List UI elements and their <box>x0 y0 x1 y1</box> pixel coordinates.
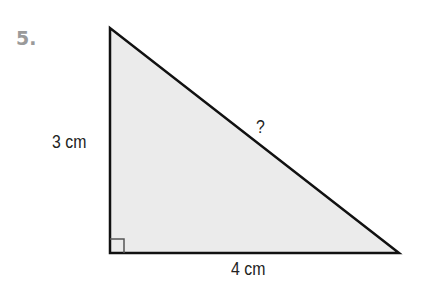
hypotenuse-label: ? <box>256 117 265 138</box>
vertical-leg-label: 3 cm <box>52 132 86 153</box>
triangle-shape <box>110 28 399 253</box>
horizontal-leg-label: 4 cm <box>231 259 265 280</box>
